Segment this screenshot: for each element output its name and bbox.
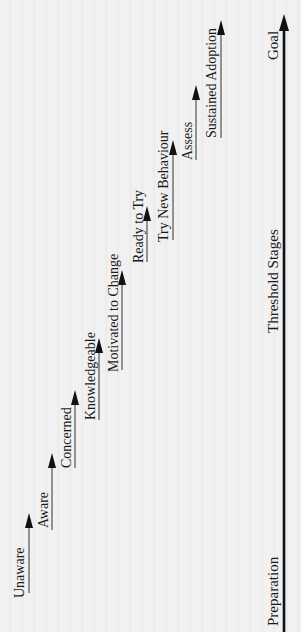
stage-label-aware: Aware	[36, 492, 52, 528]
axis-label-preparation: Preparation	[265, 557, 281, 626]
stage-label-unaware: Unaware	[12, 547, 28, 598]
stage-label-ready-to-try: Ready to Try	[131, 190, 147, 263]
stage-label-assess: Assess	[180, 122, 196, 160]
arrows-layer	[0, 0, 301, 632]
stage-label-motivated-to-change: Motivated to Change	[106, 254, 122, 372]
stage-label-concerned: Concerned	[59, 407, 75, 468]
axis-label-goal: Goal	[265, 31, 281, 60]
stage-label-sustained-adoption: Sustained Adoption	[204, 28, 220, 138]
stage-label-try-new-behaviour: Try New Behaviour	[156, 131, 172, 242]
threshold-stages-diagram: Unaware Aware Concerned Knowledgeable Mo…	[0, 0, 301, 632]
axis-label-threshold-stages: Threshold Stages	[265, 229, 281, 333]
stage-label-knowledgeable: Knowledgeable	[83, 332, 99, 420]
